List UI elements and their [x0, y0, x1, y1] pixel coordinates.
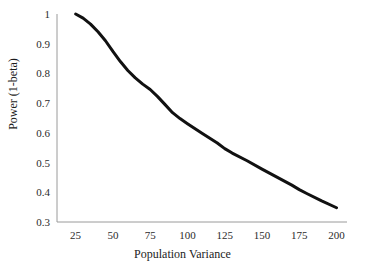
y-tick-label: 0.5 — [18, 157, 50, 168]
y-tick-label: 0.9 — [18, 38, 50, 49]
power-data-line — [76, 14, 337, 208]
x-tick-label: 100 — [179, 230, 196, 241]
y-tick-label: 0.7 — [18, 98, 50, 109]
x-tick-label: 200 — [328, 230, 345, 241]
x-tick-label: 150 — [254, 230, 271, 241]
x-tick-label: 75 — [145, 230, 156, 241]
y-tick-label: 1 — [18, 9, 50, 20]
x-tick-label: 125 — [216, 230, 233, 241]
y-tick-label: 0.6 — [18, 127, 50, 138]
y-axis-title: Power (1-beta) — [7, 34, 19, 154]
x-tick-label: 175 — [291, 230, 308, 241]
x-tick-label: 25 — [70, 230, 81, 241]
x-tick-label: 50 — [107, 230, 118, 241]
x-axis-title: Population Variance — [0, 248, 365, 260]
y-tick-label: 0.8 — [18, 68, 50, 79]
y-tick-label: 0.3 — [18, 217, 50, 228]
y-tick-label: 0.4 — [18, 187, 50, 198]
power-curve-figure: 0.30.40.50.60.70.80.91 25507510012515017… — [0, 0, 365, 272]
